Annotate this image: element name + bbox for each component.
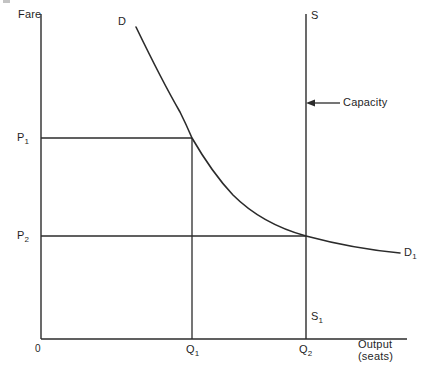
price-label-p1-subscript: 1 xyxy=(25,137,30,146)
demand-curve-label-d1-subscript: 1 xyxy=(412,252,417,261)
demand-curve xyxy=(136,27,400,253)
supply-line-label-s1-subscript: 1 xyxy=(319,316,324,325)
quantity-label-q2-subscript: 2 xyxy=(308,349,313,358)
x-axis-label: Output (seats) xyxy=(358,338,393,362)
fare-output-capacity-diagram: Fare 0 P1 P2 Q1 Q2 D D1 S S1 Capacity Ou… xyxy=(0,0,443,365)
quantity-label-q1-subscript: 1 xyxy=(195,349,200,358)
price-label-p1: P1 xyxy=(17,131,29,146)
supply-line-label-s1: S1 xyxy=(311,310,323,325)
quantity-label-q2: Q2 xyxy=(299,343,312,358)
origin-label: 0 xyxy=(35,343,41,355)
demand-curve-label-d1: D1 xyxy=(404,246,417,261)
x-axis-label-line2: (seats) xyxy=(358,350,393,362)
y-axis-label: Fare xyxy=(18,8,41,20)
price-label-p2: P2 xyxy=(17,229,29,244)
chart-canvas xyxy=(0,0,443,365)
supply-line-label-s: S xyxy=(311,9,319,21)
demand-curve-label-d: D xyxy=(118,15,126,27)
x-axis-label-line1: Output xyxy=(358,338,393,350)
capacity-arrow-head xyxy=(306,100,315,107)
quantity-label-q1: Q1 xyxy=(186,343,199,358)
capacity-annotation-label: Capacity xyxy=(343,96,387,108)
price-label-p2-subscript: 2 xyxy=(25,235,30,244)
